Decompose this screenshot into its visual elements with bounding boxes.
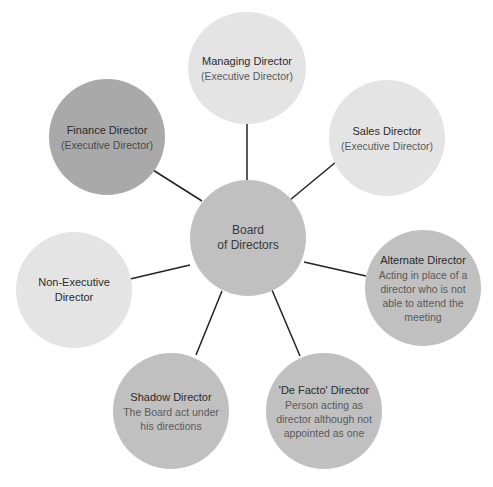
center-title-line1: Board bbox=[232, 223, 264, 238]
node-finance-director: Finance Director (Executive Director) bbox=[49, 79, 165, 195]
node-title: Non-Executive Director bbox=[34, 275, 114, 305]
node-non-executive-director: Non-Executive Director bbox=[16, 232, 132, 348]
node-title: 'De Facto' Director bbox=[279, 383, 369, 398]
node-alternate-director: Alternate Director Acting in place of a … bbox=[365, 230, 481, 346]
board-of-directors-diagram: Managing Director (Executive Director) S… bbox=[0, 0, 493, 487]
node-title: Shadow Director bbox=[130, 390, 211, 405]
node-managing-director: Managing Director (Executive Director) bbox=[188, 12, 306, 124]
center-title-line2: of Directors bbox=[217, 238, 278, 253]
node-defacto-director: 'De Facto' Director Person acting as dir… bbox=[266, 353, 382, 469]
node-subtitle: (Executive Director) bbox=[201, 69, 293, 83]
node-subtitle: (Executive Director) bbox=[341, 139, 433, 153]
node-sales-director: Sales Director (Executive Director) bbox=[329, 80, 445, 196]
node-subtitle: Acting in place of a director who is not… bbox=[373, 268, 473, 324]
node-board-of-directors: Board of Directors bbox=[190, 180, 306, 296]
node-title: Sales Director bbox=[352, 124, 421, 139]
node-subtitle: (Executive Director) bbox=[61, 138, 153, 152]
node-subtitle: Person acting as director although not a… bbox=[274, 398, 374, 440]
node-shadow-director: Shadow Director The Board act under his … bbox=[113, 353, 229, 469]
connector-non-executive bbox=[130, 265, 190, 279]
node-title: Managing Director bbox=[202, 54, 292, 69]
connector-shadow bbox=[196, 291, 222, 355]
connector-defacto bbox=[272, 290, 300, 356]
connector-alternate bbox=[304, 262, 366, 276]
node-subtitle: The Board act under his directions bbox=[121, 405, 221, 433]
connector-finance bbox=[153, 170, 202, 201]
node-title: Finance Director bbox=[67, 123, 148, 138]
node-title: Alternate Director bbox=[380, 253, 466, 268]
